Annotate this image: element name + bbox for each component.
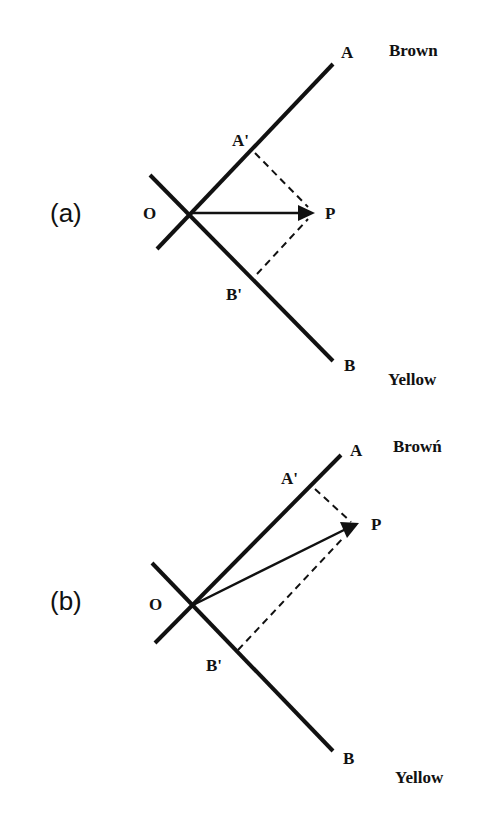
axis-b-label: B — [344, 356, 355, 375]
color-b-label: Yellow — [395, 768, 444, 787]
color-a-label: Browń — [393, 437, 442, 456]
color-a-label: Brown — [389, 41, 438, 60]
panel-b: (b) O A Browń A' P B' B Yellow — [50, 437, 444, 787]
origin-label: O — [149, 595, 162, 614]
axis-a-label: A — [341, 43, 354, 62]
arrowhead-icon — [298, 205, 315, 221]
axis-b-label: B — [343, 749, 354, 768]
point-label: P — [325, 204, 335, 223]
panel-label-a: (a) — [50, 198, 82, 228]
b-proj-label: B' — [226, 285, 242, 304]
projection-line-a — [315, 489, 351, 522]
a-proj-label: A' — [232, 131, 249, 150]
projection-line-b — [257, 219, 308, 274]
axis-b-line — [150, 175, 333, 361]
color-b-label: Yellow — [388, 370, 437, 389]
projection-line-a — [255, 153, 308, 207]
vector-projection-diagram: (a) O A Brown A' P B' B Yellow (b) O A B… — [0, 0, 485, 831]
point-label: P — [371, 515, 381, 534]
vector-op — [193, 529, 346, 605]
panel-a: (a) O A Brown A' P B' B Yellow — [50, 41, 438, 389]
origin-label: O — [143, 204, 156, 223]
axis-b-line — [152, 563, 333, 751]
projection-line-b — [238, 537, 344, 650]
a-proj-label: A' — [281, 469, 298, 488]
axis-a-label: A — [350, 441, 363, 460]
b-proj-label: B' — [206, 656, 222, 675]
axis-a-line — [155, 455, 341, 643]
panel-label-b: (b) — [50, 586, 82, 616]
